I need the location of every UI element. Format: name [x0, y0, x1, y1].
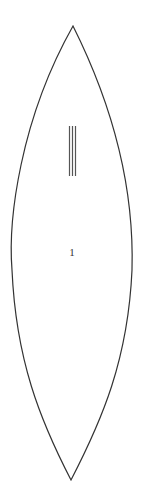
region-label: 1 [69, 246, 75, 258]
lens-diagram: 1 [0, 0, 149, 502]
